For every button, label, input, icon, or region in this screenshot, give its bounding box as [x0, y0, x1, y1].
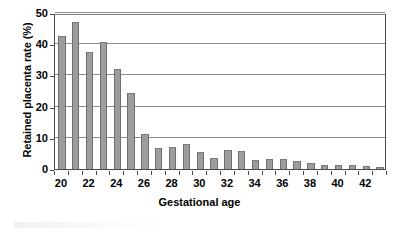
x-tick-mark-1	[68, 171, 69, 175]
x-tick-mark-12	[220, 171, 221, 175]
bar-age-33	[238, 151, 245, 169]
x-tick-mark-22	[358, 171, 359, 175]
plot-area	[54, 14, 386, 170]
x-tick-mark-15	[262, 171, 263, 175]
bar-age-35	[266, 159, 273, 169]
bar-age-22	[86, 52, 93, 169]
x-tick-mark-23	[372, 171, 373, 175]
bar-age-38	[307, 163, 314, 169]
y-tick-label-50: 50	[20, 7, 48, 19]
y-tick-label-0: 0	[20, 163, 48, 175]
x-tick-label-42: 42	[350, 177, 380, 189]
x-tick-mark-8	[165, 171, 166, 175]
bar-age-34	[252, 160, 259, 169]
y-tick-mark-20	[50, 108, 54, 109]
x-tick-mark-5	[123, 171, 124, 175]
bar-age-36	[280, 159, 287, 169]
x-tick-label-34: 34	[240, 177, 270, 189]
x-tick-label-20: 20	[46, 177, 76, 189]
gridline-50	[55, 12, 385, 13]
bar-age-27	[155, 148, 162, 169]
x-tick-label-36: 36	[267, 177, 297, 189]
y-tick-mark-40	[50, 45, 54, 46]
bar-age-26	[141, 134, 148, 169]
x-tick-mark-20	[331, 171, 332, 175]
x-tick-label-24: 24	[101, 177, 131, 189]
bar-series	[55, 15, 385, 169]
x-tick-mark-7	[151, 171, 152, 175]
bar-age-20	[58, 36, 65, 169]
bar-age-42	[363, 166, 370, 169]
y-tick-mark-50	[50, 14, 54, 15]
x-tick-mark-6	[137, 171, 138, 175]
x-tick-mark-14	[248, 171, 249, 175]
bar-age-25	[127, 93, 134, 169]
bar-age-40	[335, 165, 342, 169]
x-axis-title: Gestational age	[0, 196, 399, 208]
x-tick-mark-3	[96, 171, 97, 175]
bar-age-41	[349, 165, 356, 169]
x-tick-mark-4	[109, 171, 110, 175]
x-tick-mark-16	[275, 171, 276, 175]
bar-age-32	[224, 150, 231, 169]
x-tick-mark-21	[345, 171, 346, 175]
bar-age-31	[210, 158, 217, 169]
y-tick-mark-30	[50, 76, 54, 77]
y-tick-label-30: 30	[20, 69, 48, 81]
y-tick-mark-10	[50, 139, 54, 140]
x-tick-mark-18	[303, 171, 304, 175]
bar-age-43	[376, 167, 383, 169]
y-axis-title: Retained placenta rate (%)	[21, 5, 33, 175]
bar-age-21	[72, 22, 79, 169]
x-tick-mark-19	[317, 171, 318, 175]
x-tick-mark-11	[206, 171, 207, 175]
bar-age-28	[169, 147, 176, 169]
bar-age-39	[321, 165, 328, 169]
x-tick-label-38: 38	[295, 177, 325, 189]
x-tick-label-28: 28	[157, 177, 187, 189]
x-tick-label-30: 30	[184, 177, 214, 189]
scan-artifact	[14, 222, 244, 228]
x-tick-mark-13	[234, 171, 235, 175]
x-tick-mark-2	[82, 171, 83, 175]
x-tick-mark-24	[386, 171, 387, 175]
x-tick-mark-10	[192, 171, 193, 175]
bar-age-29	[183, 144, 190, 169]
y-tick-label-40: 40	[20, 38, 48, 50]
bar-age-30	[197, 152, 204, 169]
x-tick-label-26: 26	[129, 177, 159, 189]
x-tick-label-32: 32	[212, 177, 242, 189]
bar-age-37	[293, 161, 300, 169]
y-tick-label-10: 10	[20, 132, 48, 144]
x-tick-label-22: 22	[74, 177, 104, 189]
x-tick-label-40: 40	[323, 177, 353, 189]
bar-age-24	[114, 69, 121, 169]
chart-figure: Retained placenta rate (%) 01020304050 2…	[0, 0, 399, 232]
x-tick-mark-17	[289, 171, 290, 175]
bar-age-23	[100, 42, 107, 169]
y-tick-label-20: 20	[20, 101, 48, 113]
x-tick-mark-9	[179, 171, 180, 175]
x-tick-mark-0	[54, 171, 55, 175]
